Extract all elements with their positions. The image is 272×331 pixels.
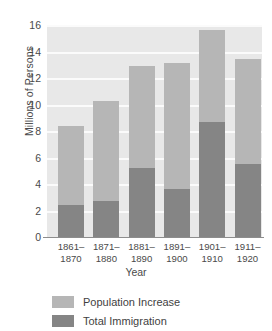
bar-segment-total-immigration [129,168,155,237]
legend-swatch [52,315,74,327]
bar-segment-population-increase [58,126,84,206]
x-axis-title: Year [0,266,272,278]
gridline [47,52,262,54]
y-axis-tick-label: 2 [14,205,41,217]
bar-segment-total-immigration [199,122,225,237]
y-axis-tick-label: 0 [14,231,41,243]
x-axis-tick-label: 1911–1920 [226,241,270,264]
bar-segment-population-increase [235,59,261,164]
gridline [47,25,262,27]
bar-segment-total-immigration [164,189,190,237]
legend-item: Population Increase [52,292,180,311]
bar-segment-total-immigration [235,164,261,237]
y-axis-tick-label: 16 [14,19,41,31]
y-axis-tick-label: 10 [14,99,41,111]
x-axis-line [43,237,264,238]
y-axis-tick-label: 4 [14,178,41,190]
chart-legend: Population IncreaseTotal Immigration [52,292,180,330]
bar-stack [235,59,261,237]
bar-stack [58,126,84,237]
legend-swatch [52,296,74,308]
y-axis-tick-label: 14 [14,46,41,58]
bar-stack [199,30,225,237]
bar-segment-population-increase [129,66,155,168]
bar-segment-population-increase [199,30,225,121]
chart-figure: Millions of Persons 0246810121416 1861–1… [0,0,272,331]
bar-segment-population-increase [164,63,190,189]
bar-segment-total-immigration [93,201,119,237]
bar-segment-total-immigration [58,205,84,237]
bar-stack [129,66,155,237]
legend-label: Population Increase [83,296,180,308]
plot-area [47,25,262,237]
y-axis-tick-label: 6 [14,152,41,164]
y-axis-tick-label: 12 [14,72,41,84]
legend-label: Total Immigration [83,315,167,327]
legend-item: Total Immigration [52,311,180,330]
bar-segment-population-increase [93,101,119,202]
bar-stack [93,101,119,237]
y-axis-tick-label: 8 [14,125,41,137]
bar-stack [164,63,190,237]
